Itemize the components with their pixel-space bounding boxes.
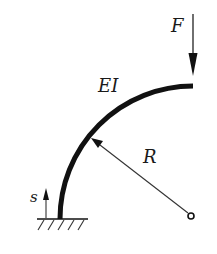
force-arrow bbox=[189, 14, 198, 76]
force-label: F bbox=[170, 15, 185, 36]
stiffness-label: EI bbox=[97, 75, 119, 96]
center-point bbox=[188, 213, 194, 219]
beam-diagram: F EI R s bbox=[0, 0, 217, 254]
s-label: s bbox=[30, 188, 38, 206]
curved-beam bbox=[60, 86, 193, 219]
s-arrow bbox=[43, 188, 49, 218]
fixed-support bbox=[37, 219, 88, 230]
radius-label: R bbox=[142, 146, 157, 167]
radius-arrow bbox=[91, 138, 188, 213]
